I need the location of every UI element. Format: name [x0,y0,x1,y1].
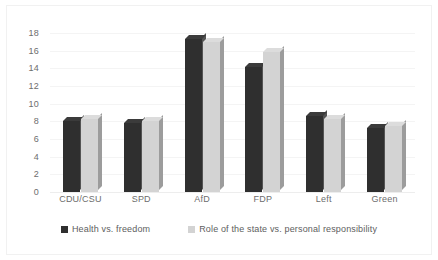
chart-legend: Health vs. freedomRole of the state vs. … [0,224,438,234]
bar[interactable] [263,52,280,192]
y-axis-tick-label: 4 [34,152,39,162]
plot-area [50,33,415,192]
gridline [50,192,415,193]
gridline [50,86,415,87]
bar[interactable] [185,39,202,192]
gridline [50,139,415,140]
bar-group-cdu-csu [63,33,98,192]
bar[interactable] [324,119,341,192]
gridline [50,33,415,34]
bar[interactable] [306,116,323,192]
bar-front-face [385,126,402,192]
gridline [50,121,415,122]
legend-item-1[interactable]: Health vs. freedom [61,224,150,234]
bar-side-face [280,46,284,190]
bar[interactable] [385,126,402,192]
bar-front-face [203,42,220,192]
x-axis-label-fdp: FDP [254,194,273,204]
bar-side-face [220,36,224,190]
y-axis: 024681012141618 [0,33,46,192]
x-axis-label-spd: SPD [132,194,151,204]
bar-side-face [402,120,406,190]
bar-side-face [159,115,163,190]
gridline [50,174,415,175]
bar-chart: 024681012141618 CDU/CSUSPDAfDFDPLeftGree… [0,0,438,260]
bar[interactable] [63,121,80,192]
y-axis-tick-label: 6 [34,134,39,144]
legend-item-2[interactable]: Role of the state vs. personal responsib… [188,224,377,234]
bar-group-spd [124,33,159,192]
bar-side-face [341,113,345,190]
gridline [50,157,415,158]
bar[interactable] [203,42,220,192]
bar[interactable] [142,121,159,192]
bar-group-fdp [245,33,280,192]
bar[interactable] [124,123,141,192]
x-axis-label-green: Green [372,194,398,204]
bar-front-face [367,128,384,192]
legend-label: Health vs. freedom [72,224,150,234]
y-axis-tick-label: 10 [29,99,39,109]
y-axis-tick-label: 16 [29,46,39,56]
bar[interactable] [367,128,384,192]
bar-front-face [124,123,141,192]
y-axis-tick-label: 14 [29,63,39,73]
legend-label: Role of the state vs. personal responsib… [199,224,377,234]
bar-front-face [142,121,159,192]
x-axis-label-afd: AfD [194,194,210,204]
gridline [50,104,415,105]
bar-front-face [306,116,323,192]
bar-front-face [81,119,98,192]
y-axis-tick-label: 12 [29,81,39,91]
bar-front-face [185,39,202,192]
y-axis-tick-label: 18 [29,28,39,38]
bar-front-face [63,121,80,192]
bar-front-face [324,119,341,192]
y-axis-tick-label: 8 [34,116,39,126]
legend-swatch-icon [61,226,68,233]
y-axis-tick-label: 2 [34,169,39,179]
bar-front-face [245,67,262,192]
bar-group-afd [185,33,220,192]
x-axis-label-cdu-csu: CDU/CSU [59,194,101,204]
bar-group-left [306,33,341,192]
bar-front-face [263,52,280,192]
y-axis-tick-label: 0 [34,187,39,197]
bar-group-green [367,33,402,192]
gridline [50,51,415,52]
legend-swatch-icon [188,226,195,233]
bar[interactable] [245,67,262,192]
bar-side-face [98,113,102,190]
bar[interactable] [81,119,98,192]
x-axis: CDU/CSUSPDAfDFDPLeftGreen [50,194,415,212]
x-axis-label-left: Left [316,194,332,204]
gridline [50,68,415,69]
